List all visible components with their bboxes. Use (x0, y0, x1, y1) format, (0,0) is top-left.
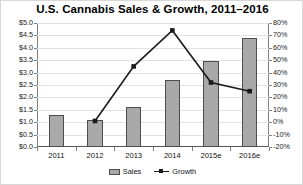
right-axis-tick-label: -20% (273, 143, 290, 151)
right-axis-tick-label: 80% (273, 19, 287, 27)
left-axis-tick-label: $0.5 (19, 131, 33, 139)
right-axis-tickmark (269, 122, 272, 123)
right-axis-tickmark (269, 73, 272, 74)
right-axis-tickmark (269, 48, 272, 49)
growth-marker (170, 28, 175, 33)
right-axis-tickmark (269, 85, 272, 86)
chart-container: U.S. Cannabis Sales & Growth, 2011–2016 … (0, 0, 303, 185)
right-axis-tickmark (269, 23, 272, 24)
right-axis-tickmark (269, 35, 272, 36)
right-axis-tick-label: 0% (273, 118, 283, 126)
x-axis-label-2016e: 2016e (230, 151, 269, 160)
plot-area: $0.0$0.5$1.0$1.5$2.0$2.5$3.0$3.5$4.0$4.5… (37, 23, 269, 147)
legend-item-sales[interactable]: Sales (109, 167, 142, 176)
right-axis-tick-label: 40% (273, 69, 287, 77)
right-axis-tick-label: 30% (273, 81, 287, 89)
legend-bar-swatch-icon (109, 169, 120, 175)
legend-item-growth[interactable]: Growth (154, 167, 196, 176)
growth-marker (247, 89, 252, 94)
left-axis-tick-label: $4.5 (19, 31, 33, 39)
legend-line-square (159, 169, 163, 173)
left-axis-tick-label: $0.0 (19, 143, 33, 151)
growth-marker (209, 80, 214, 85)
right-axis-tick-label: 20% (273, 93, 287, 101)
right-axis-tickmark (269, 135, 272, 136)
x-axis-label-2012: 2012 (76, 151, 115, 160)
line-series-growth (37, 23, 269, 147)
growth-marker (131, 64, 136, 69)
left-axis-tick-label: $1.0 (19, 118, 33, 126)
chart-legend: SalesGrowth (1, 167, 303, 176)
left-axis-tick-label: $1.5 (19, 106, 33, 114)
growth-line-path (95, 30, 250, 121)
x-axis-label-2014: 2014 (153, 151, 192, 160)
right-axis-tick-label: 70% (273, 31, 287, 39)
x-axis-label-2011: 2011 (37, 151, 76, 160)
legend-label: Growth (172, 167, 196, 176)
legend-label: Sales (123, 167, 142, 176)
chart-title: U.S. Cannabis Sales & Growth, 2011–2016 (1, 3, 303, 15)
left-axis-tick-label: $2.5 (19, 81, 33, 89)
x-axis-label-2015e: 2015e (192, 151, 231, 160)
left-axis-tick-label: $3.5 (19, 56, 33, 64)
legend-line-marker-icon (154, 168, 169, 175)
left-axis-tick-label: $5.0 (19, 19, 33, 27)
x-axis-tickmark (269, 147, 270, 151)
right-axis-tick-label: -10% (273, 131, 290, 139)
right-axis-tick-label: 50% (273, 56, 287, 64)
left-axis-tick-label: $3.0 (19, 69, 33, 77)
right-axis-tick-label: 60% (273, 44, 287, 52)
right-axis-tick-label: 10% (273, 106, 287, 114)
right-axis-tickmark (269, 97, 272, 98)
x-axis-label-2013: 2013 (114, 151, 153, 160)
left-axis-tick-label: $2.0 (19, 93, 33, 101)
growth-marker (93, 119, 98, 124)
right-axis-tickmark (269, 110, 272, 111)
right-axis-tickmark (269, 60, 272, 61)
left-axis-tick-label: $4.0 (19, 44, 33, 52)
